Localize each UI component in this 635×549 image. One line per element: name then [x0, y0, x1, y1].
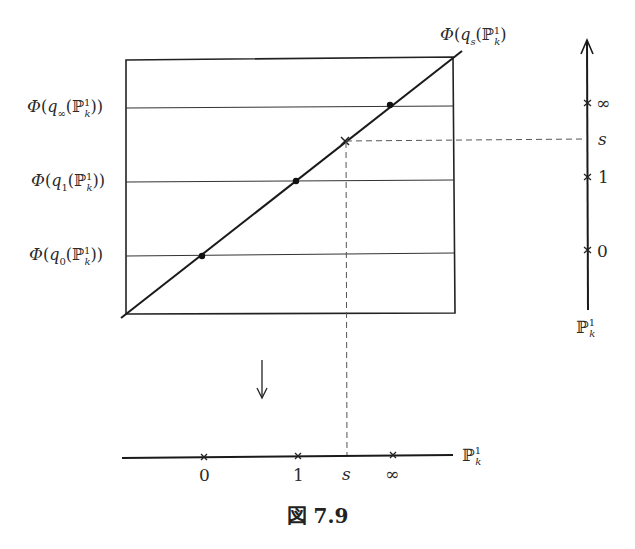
- bottom-axis-label: ℙ1k: [462, 446, 481, 467]
- bottom-tick-0: 0: [199, 467, 210, 484]
- label-phi-q-s: Φ(qs(ℙ1k): [440, 26, 507, 47]
- section-line-q-1: [126, 180, 454, 182]
- bottom-tick-inf: ∞: [385, 466, 399, 483]
- bottom-tick-s: s: [342, 466, 351, 483]
- bottom-axis: [122, 455, 453, 458]
- diagram-canvas: [0, 0, 635, 549]
- bottom-tick-1: 1: [293, 467, 304, 484]
- intersection-dot-inf: [387, 102, 393, 108]
- right-axis-label: ℙ1k: [576, 318, 595, 339]
- figure-caption: 図 7.9: [0, 500, 635, 529]
- dashed-horizontal-s: [346, 139, 586, 141]
- right-tick-1: 1: [598, 169, 609, 186]
- right-tick-inf: ∞: [596, 95, 610, 112]
- dashed-vertical-s: [346, 142, 347, 457]
- diagonal-section-q-s: [121, 51, 462, 318]
- right-tick-0: 0: [597, 243, 608, 260]
- label-phi-q-inf: Φ(q∞(ℙ1k)): [27, 98, 103, 119]
- section-line-q-0: [126, 253, 454, 256]
- right-tick-s: s: [598, 131, 607, 148]
- label-phi-q-0: Φ(q0(ℙ1k)): [29, 246, 103, 267]
- section-line-q-inf: [126, 106, 453, 108]
- intersection-dot-1: [293, 178, 299, 184]
- intersection-dot-0: [199, 253, 205, 259]
- figure-7-9: Φ(q∞(ℙ1k)) Φ(q1(ℙ1k)) Φ(q0(ℙ1k)) Φ(qs(ℙ1…: [0, 0, 635, 549]
- label-phi-q-1: Φ(q1(ℙ1k)): [31, 172, 105, 193]
